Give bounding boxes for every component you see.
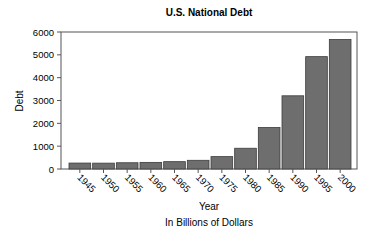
bar-2000 (329, 39, 351, 169)
y-tick-label: 6000 (33, 27, 54, 38)
x-axis-label: Year (199, 201, 220, 212)
x-tick-label: 1970 (194, 172, 217, 195)
bar-1965 (164, 162, 186, 169)
bar-1950 (93, 163, 115, 169)
y-tick-label: 2000 (33, 118, 54, 129)
x-tick-label: 1955 (123, 172, 146, 195)
bar-1985 (258, 128, 280, 169)
bar-1955 (116, 163, 138, 169)
bar-1945 (69, 163, 91, 169)
plot-area: 0100020003000400050006000194519501955196… (33, 27, 359, 195)
x-tick-label: 1950 (99, 172, 122, 195)
bar-1975 (211, 157, 233, 169)
x-tick-label: 1945 (75, 172, 98, 195)
x-tick-label: 1980 (241, 172, 264, 195)
x-tick-label: 2000 (336, 172, 359, 195)
y-tick-label: 4000 (33, 72, 54, 83)
x-tick-label: 1995 (312, 172, 335, 195)
y-tick-label: 0 (49, 164, 54, 175)
bar-1995 (306, 57, 328, 169)
chart-subtitle: In Billions of Dollars (165, 217, 253, 228)
bar-1970 (187, 160, 209, 169)
bar-1980 (235, 148, 257, 169)
bar-1990 (282, 96, 304, 169)
x-tick-label: 1965 (170, 172, 193, 195)
y-tick-label: 5000 (33, 49, 54, 60)
x-tick-label: 1960 (146, 172, 169, 195)
y-tick-label: 1000 (33, 141, 54, 152)
y-tick-label: 3000 (33, 95, 54, 106)
bar-chart: U.S. National Debt 010002000300040005000… (0, 0, 374, 237)
x-tick-label: 1990 (288, 172, 311, 195)
x-tick-label: 1975 (217, 172, 240, 195)
chart-title: U.S. National Debt (166, 7, 253, 18)
bar-1960 (140, 162, 162, 169)
x-tick-label: 1985 (265, 172, 288, 195)
y-axis-label: Debt (14, 90, 25, 111)
